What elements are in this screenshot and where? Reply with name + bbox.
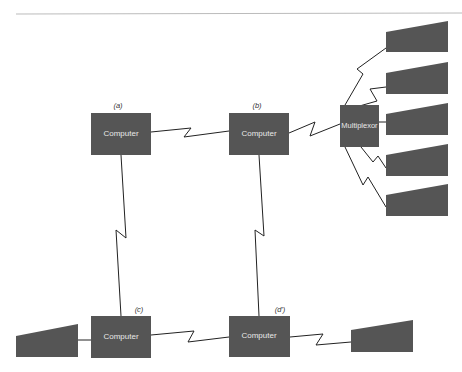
computer-b-tag: (b) <box>252 101 262 110</box>
computer-d-tag: (d') <box>275 305 286 314</box>
terminal-3 <box>386 103 448 135</box>
terminal-5 <box>386 184 448 216</box>
network-diagram: (a) Computer (b) Computer (c) Computer (… <box>0 0 462 372</box>
link-multiplexor-terminal-5 <box>345 147 386 207</box>
link-multiplexor-terminal-2 <box>356 87 386 107</box>
link-b-multiplexor <box>289 122 340 136</box>
link-a-b <box>151 128 229 137</box>
terminal-1 <box>386 21 448 52</box>
computer-a: (a) Computer <box>91 101 151 155</box>
multiplexor-label: Multiplexor <box>341 121 378 130</box>
computer-b-label: Computer <box>241 129 276 138</box>
top-rule <box>16 13 462 14</box>
link-multiplexor-terminal-4 <box>361 147 386 168</box>
computer-d-label: Computer <box>241 331 276 340</box>
link-a-c <box>116 155 126 316</box>
computer-b: (b) Computer <box>229 101 289 155</box>
link-b-d <box>255 155 264 316</box>
terminal-4 <box>386 144 448 176</box>
terminal-left <box>16 324 78 357</box>
terminal-right <box>351 320 413 352</box>
multiplexor: Multiplexor <box>340 105 379 147</box>
terminal-2 <box>386 62 448 94</box>
link-multiplexor-terminal-1 <box>345 48 386 105</box>
link-c-d <box>151 331 229 342</box>
link-d-terminal-right <box>290 334 351 345</box>
computer-c-label: Computer <box>103 332 138 341</box>
computer-a-tag: (a) <box>113 101 123 110</box>
computer-d: (d') Computer <box>229 305 290 357</box>
computer-a-label: Computer <box>103 129 138 138</box>
computer-c-tag: (c) <box>135 305 144 314</box>
